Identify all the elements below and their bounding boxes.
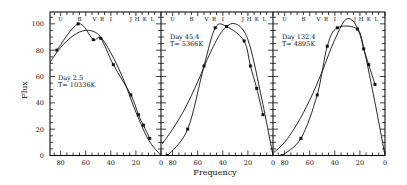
- band-label: J: [353, 16, 356, 23]
- band-label: U: [282, 16, 287, 22]
- x-tick-label: 80: [56, 159, 64, 167]
- temperature-label: T= 10336K: [58, 81, 96, 89]
- data-point: [326, 45, 329, 48]
- chart-panel-3: 806040200UBVRIJHKLDay 132.4T= 4895K: [273, 12, 387, 167]
- plot-border: [50, 12, 385, 156]
- band-label: H: [135, 16, 140, 22]
- band-label: B: [301, 16, 305, 22]
- band-label: J: [129, 16, 132, 23]
- x-tick-label: 0: [383, 159, 387, 167]
- blackbody-fit-curve: [49, 30, 161, 155]
- plot-frame: [50, 12, 385, 156]
- band-label: R: [100, 16, 105, 22]
- data-point: [166, 154, 169, 157]
- x-tick-label: 80: [168, 159, 176, 167]
- data-point: [281, 154, 284, 157]
- data-point: [214, 26, 217, 29]
- band-label: L: [150, 16, 154, 22]
- x-tick-label: 80: [280, 159, 288, 167]
- x-tick-label: 20: [132, 159, 140, 167]
- sed-flux-chart: 806040200UBVRIJHKLDay 2.5T= 10336K806040…: [0, 0, 407, 185]
- y-tick-label: 40: [36, 99, 44, 107]
- x-tick-label: 20: [356, 159, 364, 167]
- temperature-label: T= 5366K: [170, 40, 203, 48]
- band-label: B: [189, 16, 193, 22]
- data-point: [186, 128, 189, 131]
- x-tick-label: 20: [244, 159, 252, 167]
- temperature-label: T= 4895K: [282, 40, 315, 48]
- chart-panel-2: 806040200UBVRIJHKLDay 45.4T= 5366K: [161, 12, 275, 167]
- band-label: H: [359, 16, 364, 22]
- x-tick-label: 0: [271, 159, 275, 167]
- y-tick-label: 80: [36, 47, 44, 55]
- band-label: L: [262, 16, 266, 22]
- data-point: [336, 26, 339, 29]
- data-point: [92, 38, 95, 41]
- x-tick-label: 60: [82, 159, 90, 167]
- data-point: [373, 83, 376, 86]
- band-label: L: [374, 16, 378, 22]
- data-point: [77, 22, 80, 25]
- y-axis-label: Flux: [20, 81, 29, 99]
- band-label: R: [324, 16, 329, 22]
- band-label: V: [91, 16, 97, 22]
- data-point: [316, 93, 319, 96]
- x-tick-label: 0: [159, 159, 163, 167]
- band-label: U: [170, 16, 175, 22]
- band-label: V: [315, 16, 321, 22]
- x-axis-label: Frequency: [193, 168, 237, 177]
- y-axis: 020406080100: [32, 20, 44, 160]
- data-point: [112, 63, 115, 66]
- band-label: K: [255, 16, 260, 22]
- x-tick-label: 40: [219, 159, 227, 167]
- y-tick-label: 60: [36, 73, 44, 81]
- chart-panel-1: 806040200UBVRIJHKLDay 2.5T= 10336K: [49, 12, 163, 167]
- band-label: J: [241, 16, 244, 23]
- band-label: H: [247, 16, 252, 22]
- band-label: K: [367, 16, 372, 22]
- chart-panels: 806040200UBVRIJHKLDay 2.5T= 10336K806040…: [49, 12, 387, 167]
- band-label: K: [143, 16, 148, 22]
- data-point: [255, 87, 258, 90]
- data-point: [299, 137, 302, 140]
- y-tick-label: 100: [32, 20, 44, 28]
- data-point: [249, 64, 252, 67]
- band-label: U: [58, 16, 63, 22]
- x-tick-label: 60: [194, 159, 202, 167]
- x-tick-label: 40: [331, 159, 339, 167]
- y-tick-label: 0: [40, 152, 44, 160]
- x-tick-label: 40: [107, 159, 115, 167]
- band-label: V: [203, 16, 209, 22]
- band-label: R: [212, 16, 217, 22]
- y-tick-label: 20: [36, 126, 44, 134]
- data-point: [243, 39, 246, 42]
- data-point: [261, 113, 264, 116]
- band-label: I: [334, 16, 336, 22]
- band-label: I: [222, 16, 224, 22]
- band-label: I: [110, 16, 112, 22]
- x-tick-label: 60: [306, 159, 314, 167]
- band-label: B: [77, 16, 81, 22]
